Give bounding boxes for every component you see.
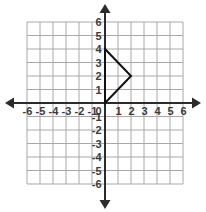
origin-label: 0 [95, 105, 101, 117]
y-tick-label: 5 [95, 30, 101, 42]
y-tick-label: 3 [95, 57, 101, 69]
y-axis-up-arrow-icon [100, 4, 111, 13]
y-tick-label: 4 [95, 43, 102, 55]
y-tick-label: 1 [95, 84, 101, 96]
x-tick-label: 4 [154, 105, 161, 117]
x-tick-label: -2 [75, 105, 85, 117]
y-tick-label: -4 [92, 151, 103, 163]
coordinate-plane: -6-5-4-3-2-1123456 -6-5-4-3-2-1123456 0 [0, 0, 206, 212]
x-tick-label: 5 [167, 105, 173, 117]
x-tick-label: 3 [141, 105, 147, 117]
x-tick-label: 1 [115, 105, 121, 117]
y-axis-down-arrow-icon [100, 200, 111, 209]
x-axis-left-arrow-icon [5, 98, 14, 109]
x-tick-label: -5 [36, 105, 46, 117]
y-tick-label: -5 [92, 165, 102, 177]
x-axis-right-arrow-icon [192, 98, 201, 109]
x-tick-label: 2 [128, 105, 134, 117]
y-tick-label: 6 [95, 16, 101, 28]
origin-tick-label: 0 [95, 105, 101, 117]
y-tick-label: 2 [95, 70, 101, 82]
y-tick-label: -2 [92, 124, 102, 136]
x-tick-label: 6 [180, 105, 186, 117]
coordinate-grid-figure: -6-5-4-3-2-1123456 -6-5-4-3-2-1123456 0 [0, 0, 206, 212]
x-tick-label: -3 [62, 105, 72, 117]
x-tick-label: -6 [23, 105, 33, 117]
y-tick-label: -6 [92, 178, 102, 190]
y-tick-label: -3 [92, 138, 102, 150]
x-tick-label: -4 [49, 105, 60, 117]
